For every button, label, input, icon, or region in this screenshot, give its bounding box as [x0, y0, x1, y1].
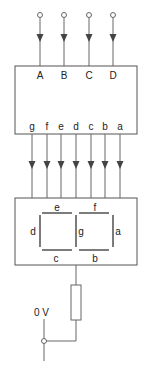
- output-label-c: c: [89, 121, 94, 132]
- output-label-a: a: [117, 121, 123, 132]
- segment-label-f: f: [94, 202, 97, 213]
- output-label-f: f: [46, 121, 49, 132]
- input-label-A: A: [37, 70, 44, 81]
- segment-label-e: e: [54, 202, 60, 213]
- resistor: [71, 285, 81, 320]
- segment-label-g: g: [78, 226, 84, 237]
- input-D: [110, 13, 117, 67]
- seven-segment-digit: [40, 213, 113, 250]
- output-arrows: [29, 161, 124, 169]
- ground-label: 0 V: [34, 307, 49, 318]
- output-label-g: g: [29, 121, 35, 132]
- input-A: [37, 13, 44, 67]
- output-label-d: d: [73, 121, 79, 132]
- ground-terminal: [42, 339, 47, 344]
- segment-label-b: b: [92, 253, 98, 264]
- input-lines: [37, 13, 117, 67]
- input-B: [61, 13, 68, 67]
- segment-label-c: c: [54, 253, 59, 264]
- segment-label-d: d: [30, 226, 36, 237]
- output-label-b: b: [102, 121, 108, 132]
- input-label-B: B: [61, 70, 68, 81]
- input-label-C: C: [85, 70, 92, 81]
- segment-label-a: a: [115, 226, 121, 237]
- decoder-display-diagram: A B C D g f e d c b a e f d g a: [0, 0, 152, 382]
- output-label-e: e: [58, 121, 64, 132]
- input-label-D: D: [109, 70, 116, 81]
- input-C: [86, 13, 93, 67]
